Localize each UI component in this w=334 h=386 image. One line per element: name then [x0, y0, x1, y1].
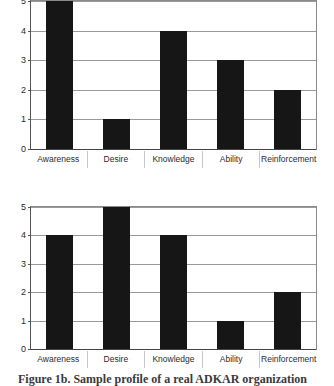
bar-cell-knowledge [145, 207, 202, 349]
category-axis-top: Awareness Desire Knowledge Ability Reinf… [30, 151, 317, 168]
bar-cell-knowledge [145, 1, 202, 149]
figure-caption: Figure 1b. Sample profile of a real ADKA… [18, 373, 324, 386]
category-label-desire: Desire [88, 151, 146, 168]
ytick-label-1: 1 [21, 115, 31, 124]
gridline-0 [31, 349, 316, 350]
ytick-label-3: 3 [21, 259, 31, 268]
plot-area-bottom: 5 4 3 2 1 0 [30, 206, 317, 350]
gridline-0 [31, 149, 316, 150]
bar-ability [217, 60, 244, 149]
bar-cell-desire [88, 207, 145, 349]
category-label-ability: Ability [203, 351, 261, 368]
ytick-label-1: 1 [21, 316, 31, 325]
bar-desire [103, 207, 130, 349]
ytick-label-4: 4 [21, 26, 31, 35]
category-label-awareness: Awareness [30, 151, 88, 168]
bar-chart-bottom: 5 4 3 2 1 0 Awareness Desire Knowledge A… [0, 192, 334, 368]
bar-series-top [31, 1, 316, 149]
bar-awareness [46, 1, 73, 149]
bar-knowledge [160, 235, 187, 349]
figure-page: 5 4 3 2 1 0 Awareness Desire Knowledge A… [0, 0, 334, 386]
ytick-label-5: 5 [21, 0, 31, 6]
category-label-reinforcement: Reinforcement [260, 351, 317, 368]
category-label-ability: Ability [203, 151, 261, 168]
ytick-label-4: 4 [21, 231, 31, 240]
bar-cell-awareness [31, 207, 88, 349]
bar-cell-reinforcement [259, 1, 316, 149]
bar-cell-ability [202, 207, 259, 349]
category-label-desire: Desire [88, 351, 146, 368]
bar-cell-ability [202, 1, 259, 149]
plot-area-top: 5 4 3 2 1 0 [30, 0, 317, 150]
category-label-knowledge: Knowledge [145, 351, 203, 368]
bar-desire [103, 119, 130, 149]
bar-chart-top: 5 4 3 2 1 0 Awareness Desire Knowledge A… [0, 0, 334, 168]
category-label-reinforcement: Reinforcement [260, 151, 317, 168]
ytick-label-3: 3 [21, 56, 31, 65]
bar-series-bottom [31, 207, 316, 349]
bar-cell-reinforcement [259, 207, 316, 349]
category-label-awareness: Awareness [30, 351, 88, 368]
bar-reinforcement [274, 90, 301, 149]
ytick-label-2: 2 [21, 288, 31, 297]
ytick-label-2: 2 [21, 85, 31, 94]
bar-awareness [46, 235, 73, 349]
ytick-label-5: 5 [21, 203, 31, 212]
bar-ability [217, 321, 244, 349]
bar-cell-desire [88, 1, 145, 149]
category-label-knowledge: Knowledge [145, 151, 203, 168]
bar-knowledge [160, 31, 187, 149]
bar-cell-awareness [31, 1, 88, 149]
category-axis-bottom: Awareness Desire Knowledge Ability Reinf… [30, 351, 317, 368]
bar-reinforcement [274, 292, 301, 349]
